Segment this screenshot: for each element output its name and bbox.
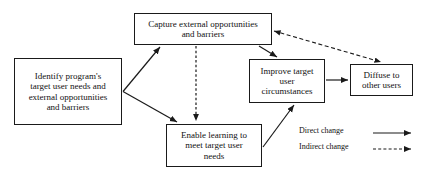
node-capture-label: Capture external opportunities and barri…	[145, 19, 260, 39]
node-diffuse-label: Diffuse to other users	[359, 70, 404, 90]
edge-capture-to-improve	[259, 46, 277, 57]
legend-indirect-arrow-icon	[373, 143, 415, 154]
node-identify-program-needs[interactable]: Identify program's target user needs and…	[14, 58, 122, 125]
node-capture-external-opportunities[interactable]: Capture external opportunities and barri…	[134, 13, 272, 45]
node-improve-user-circumstances[interactable]: Improve target user circumstances	[249, 59, 325, 103]
node-improve-label: Improve target user circumstances	[257, 66, 316, 96]
node-identify-label: Identify program's target user needs and…	[26, 71, 111, 111]
legend-direct-arrow-icon	[373, 127, 415, 138]
node-enable-learning[interactable]: Enable learning to meet target user need…	[166, 124, 262, 167]
legend-row-indirect: Indirect change	[299, 142, 419, 158]
edge-identify-to-enable	[123, 92, 177, 123]
legend-indirect-label: Indirect change	[299, 142, 349, 151]
legend: Direct change Indirect change	[299, 126, 419, 158]
legend-direct-label: Direct change	[299, 126, 344, 135]
node-diffuse-other-users[interactable]: Diffuse to other users	[350, 64, 413, 96]
legend-row-direct: Direct change	[299, 126, 419, 142]
edge-enable-to-improve	[263, 105, 294, 147]
edge-diffuse-capture-bidirectional	[274, 31, 381, 62]
edge-identify-to-capture	[123, 47, 160, 92]
process-diagram: Identify program's target user needs and…	[0, 0, 428, 173]
node-enable-label: Enable learning to meet target user need…	[178, 130, 250, 160]
